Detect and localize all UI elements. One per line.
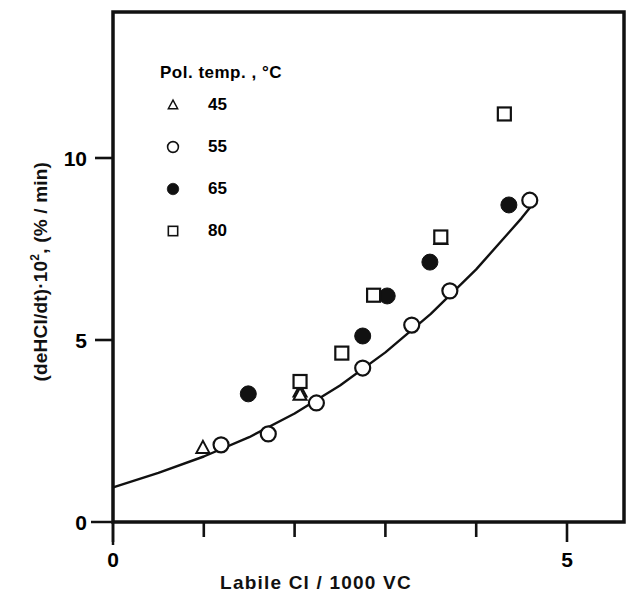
legend-marker-filled-circle	[167, 183, 179, 195]
y-axis-label-exponent: 2	[28, 254, 42, 261]
data-point-65-0	[240, 386, 256, 402]
legend-item-55: 55	[168, 137, 227, 156]
data-point-65-1	[355, 328, 371, 344]
legend-label-65: 65	[208, 179, 227, 198]
axis-tick-labels: 050510	[64, 147, 574, 571]
y-axis-ticks	[95, 158, 113, 340]
data-markers-group	[196, 107, 537, 452]
data-point-55-6	[522, 193, 537, 208]
legend-label-45: 45	[208, 95, 227, 114]
chart-figure: 050510 Pol. temp. , °C45556580 (deHCl/dt…	[0, 0, 632, 613]
y-tick-label-5: 5	[75, 329, 87, 352]
data-point-55-2	[309, 395, 324, 410]
legend: Pol. temp. , °C45556580	[160, 63, 282, 240]
legend-title: Pol. temp. , °C	[160, 63, 282, 82]
trend-line-group	[114, 205, 533, 488]
data-point-55-3	[355, 361, 370, 376]
y-tick-label-10: 10	[64, 147, 87, 170]
plot-frame	[113, 12, 624, 522]
legend-marker-open-circle	[168, 142, 179, 153]
legend-marker-open-square	[168, 226, 177, 235]
y-tick-label-0: 0	[75, 511, 87, 534]
series-55	[214, 193, 538, 453]
data-point-65-2	[379, 288, 395, 304]
data-point-65-3	[422, 254, 438, 270]
legend-label-55: 55	[208, 137, 227, 156]
scatter-plot: 050510 Pol. temp. , °C45556580	[0, 0, 632, 613]
plot-border	[113, 12, 624, 522]
x-axis-label: Labile Cl / 1000 VC	[0, 572, 632, 594]
data-point-55-4	[404, 318, 419, 333]
data-point-55-5	[442, 283, 457, 298]
y-axis-label-main: (deHCl/dt)	[30, 289, 51, 382]
legend-marker-open-triangle	[168, 100, 177, 109]
data-point-80-3	[434, 230, 447, 243]
legend-item-80: 80	[168, 221, 227, 240]
data-point-80-0	[294, 375, 307, 388]
y-axis-label-mult: ·10	[30, 261, 51, 289]
axis-extension-lines	[91, 522, 113, 545]
x-axis-ticks	[113, 522, 567, 542]
x-tick-label-0: 0	[107, 548, 119, 571]
data-point-80-4	[498, 107, 511, 120]
legend-item-65: 65	[167, 179, 227, 198]
legend-label-80: 80	[208, 221, 227, 240]
data-point-80-1	[335, 347, 348, 360]
y-axis-label: (deHCl/dt)·102, (% / min)	[28, 82, 51, 462]
trend-line	[114, 205, 533, 488]
x-tick-label-5: 5	[561, 548, 573, 571]
data-point-80-2	[367, 289, 380, 302]
data-point-45-0	[196, 441, 209, 453]
data-point-55-0	[214, 437, 229, 452]
y-axis-label-unit: , (% / min)	[30, 162, 51, 254]
data-point-55-1	[261, 426, 276, 441]
legend-item-45: 45	[168, 95, 227, 114]
series-45	[196, 232, 447, 453]
series-80	[294, 107, 511, 388]
data-point-65-4	[501, 197, 517, 213]
